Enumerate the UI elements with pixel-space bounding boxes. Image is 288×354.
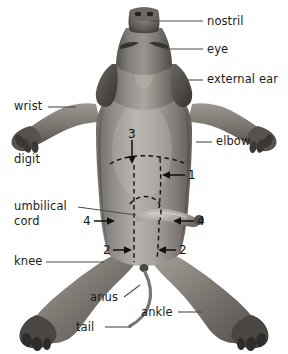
figure-canvas: nostril eye external ear elbow wrist dig… bbox=[0, 0, 288, 354]
marker-4-right: 4 bbox=[197, 215, 205, 227]
snout-disc-face bbox=[129, 7, 159, 21]
marker-2-right: 2 bbox=[179, 244, 187, 256]
label-nostril: nostril bbox=[207, 15, 244, 28]
fetal-pig-illustration bbox=[0, 0, 288, 354]
label-knee: knee bbox=[14, 255, 43, 268]
label-umbilical-cord-line2: cord bbox=[14, 215, 40, 228]
label-ankle: ankle bbox=[141, 306, 173, 319]
nostril-opening-right bbox=[147, 12, 153, 16]
label-digit: digit bbox=[14, 153, 40, 166]
head bbox=[116, 28, 172, 75]
marker-1: 1 bbox=[188, 169, 196, 181]
label-external-ear: external ear bbox=[207, 73, 278, 86]
marker-3: 3 bbox=[128, 128, 136, 140]
label-elbow: elbow bbox=[216, 135, 251, 148]
label-anus: anus bbox=[90, 291, 118, 304]
marker-2-left: 2 bbox=[103, 244, 111, 256]
leader-anus bbox=[124, 285, 140, 297]
pig-body-group bbox=[11, 7, 276, 352]
label-wrist: wrist bbox=[14, 100, 42, 113]
nostril-opening-left bbox=[135, 12, 141, 16]
label-eye: eye bbox=[207, 43, 228, 56]
torso-highlight bbox=[112, 102, 172, 198]
label-tail: tail bbox=[76, 321, 94, 334]
label-umbilical-cord-line1: umbilical bbox=[14, 200, 67, 213]
marker-4-left: 4 bbox=[83, 215, 91, 227]
